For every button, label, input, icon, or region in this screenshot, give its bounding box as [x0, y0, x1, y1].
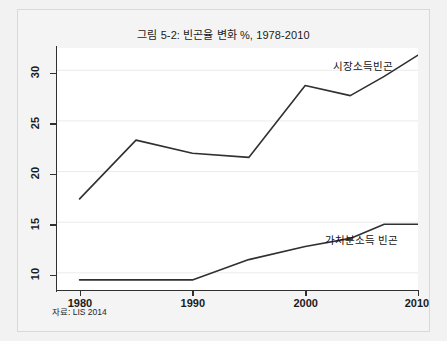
y-tick-mark-15 — [50, 224, 56, 225]
chart-title: 그림 5-2: 빈곤율 변화 %, 1978-2010 — [0, 26, 447, 42]
x-tick-label-2010: 2010 — [394, 297, 440, 309]
y-tick-label-30: 30 — [29, 59, 41, 85]
y-tick-mark-25 — [50, 123, 56, 124]
x-tick-label-2000: 2000 — [283, 297, 329, 309]
x-tick-mark-2010 — [418, 291, 419, 296]
source-note: 자료: LIS 2014 — [52, 305, 107, 317]
y-axis-line — [56, 46, 57, 292]
series-label-disposable-income: 가처분소득 빈곤 — [325, 232, 398, 247]
y-tick-label-10: 10 — [29, 261, 41, 287]
y-tick-label-25: 25 — [29, 110, 41, 136]
y-tick-mark-10 — [50, 275, 56, 276]
y-tick-label-15: 15 — [29, 211, 41, 237]
x-tick-mark-1980 — [80, 291, 81, 296]
y-tick-mark-30 — [50, 73, 56, 74]
x-axis-line — [56, 290, 419, 291]
figure-screenshot: 그림 5-2: 빈곤율 변화 %, 1978-2010 30 25 20 15 … — [0, 0, 447, 341]
y-tick-mark-20 — [50, 174, 56, 175]
x-tick-label-1990: 1990 — [170, 297, 216, 309]
x-tick-mark-1990 — [192, 291, 193, 296]
y-tick-label-20: 20 — [29, 160, 41, 186]
series-label-market-income: 시장소득빈곤 — [333, 58, 393, 73]
plot-area — [57, 48, 418, 290]
chart-canvas — [57, 48, 418, 290]
x-tick-mark-2000 — [305, 291, 306, 296]
